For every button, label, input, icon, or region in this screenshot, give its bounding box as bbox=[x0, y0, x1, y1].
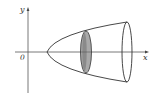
origin-label: 0 bbox=[20, 53, 25, 62]
y-axis-label: y bbox=[19, 5, 25, 14]
x-axis-label: x bbox=[143, 53, 148, 62]
solid-of-revolution-diagram: y x 0 bbox=[0, 0, 153, 101]
cross-section-disk bbox=[81, 31, 92, 73]
y-axis-arrow-icon bbox=[27, 7, 30, 11]
y-axis bbox=[27, 7, 30, 93]
